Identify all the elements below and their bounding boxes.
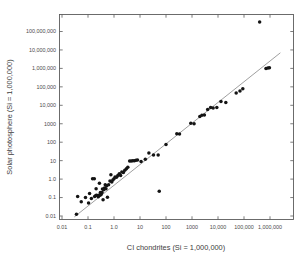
y-axis-tick-labels: 0.010.11.010100100010,000100,0001,000,00… bbox=[26, 28, 56, 219]
data-point bbox=[139, 160, 143, 164]
data-point bbox=[107, 183, 111, 187]
data-point bbox=[104, 187, 108, 191]
data-point bbox=[152, 153, 156, 157]
data-point bbox=[238, 89, 242, 93]
data-point bbox=[192, 122, 196, 126]
data-point bbox=[156, 153, 160, 157]
data-point bbox=[84, 196, 88, 200]
y-tick-label: 100,000,000 bbox=[26, 28, 56, 34]
y-tick-label: 100,000 bbox=[37, 84, 57, 90]
data-point bbox=[215, 106, 219, 110]
y-tick-label: 1,000,000 bbox=[32, 65, 56, 71]
data-point bbox=[206, 108, 210, 112]
x-axis-ticks bbox=[62, 15, 270, 220]
data-point bbox=[234, 91, 238, 95]
data-point bbox=[79, 200, 83, 204]
x-axis-tick-labels: 0.010.11.010100100010,000100,0001,000,00… bbox=[57, 224, 282, 230]
x-tick-label: 100 bbox=[162, 224, 171, 230]
x-tick-label: 100,000 bbox=[234, 224, 254, 230]
x-tick-label: 0.1 bbox=[84, 224, 92, 230]
data-point bbox=[211, 106, 215, 110]
data-point bbox=[224, 101, 228, 105]
data-point bbox=[164, 143, 168, 147]
y-tick-label: 10,000,000 bbox=[29, 47, 56, 53]
data-point bbox=[189, 122, 193, 126]
data-point bbox=[87, 201, 91, 205]
data-point bbox=[157, 189, 161, 193]
y-tick-label: 0.1 bbox=[49, 194, 57, 200]
data-point bbox=[94, 187, 98, 191]
data-point bbox=[106, 195, 110, 199]
data-point bbox=[203, 113, 207, 117]
data-point bbox=[109, 173, 113, 177]
data-point bbox=[88, 192, 92, 196]
data-point bbox=[219, 100, 223, 104]
data-point bbox=[178, 132, 182, 136]
y-tick-label: 100 bbox=[47, 139, 56, 145]
x-axis-title: CI chondrites (Si = 1,000,000) bbox=[127, 243, 225, 252]
data-point bbox=[144, 157, 148, 161]
x-tick-label: 1.0 bbox=[110, 224, 118, 230]
data-point bbox=[75, 212, 79, 216]
y-tick-label: 0.01 bbox=[46, 213, 57, 219]
y-axis-title: Solar photosphere (Si = 1,000,000) bbox=[5, 59, 14, 174]
data-point bbox=[101, 198, 105, 202]
x-tick-label: 1000 bbox=[186, 224, 198, 230]
x-tick-label: 1,000,000 bbox=[258, 224, 282, 230]
x-tick-label: 10 bbox=[137, 224, 143, 230]
x-tick-label: 10,000 bbox=[210, 224, 227, 230]
data-point bbox=[76, 195, 80, 199]
y-tick-label: 10,000 bbox=[40, 102, 57, 108]
data-point bbox=[126, 165, 130, 169]
data-point bbox=[241, 87, 245, 91]
y-tick-label: 1.0 bbox=[49, 176, 57, 182]
data-point bbox=[98, 181, 102, 185]
data-points bbox=[75, 20, 271, 216]
data-point bbox=[147, 151, 151, 155]
chart-figure: 0.010.11.010100100010,000100,0001,000,00… bbox=[0, 0, 307, 262]
data-point bbox=[268, 66, 272, 70]
y-tick-label: 1000 bbox=[44, 121, 56, 127]
data-point bbox=[119, 174, 123, 178]
data-point bbox=[90, 197, 94, 201]
y-tick-label: 10 bbox=[50, 158, 56, 164]
data-point bbox=[93, 177, 97, 181]
data-point bbox=[258, 20, 262, 24]
x-tick-label: 0.01 bbox=[57, 224, 68, 230]
scatter-plot-svg: 0.010.11.010100100010,000100,0001,000,00… bbox=[0, 0, 307, 262]
data-point bbox=[136, 158, 140, 162]
